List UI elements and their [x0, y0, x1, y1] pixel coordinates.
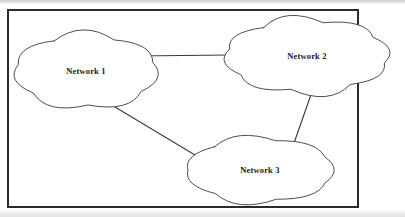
cloud-shapes-layer [14, 15, 390, 205]
cloud-label-network-3: Network 3 [240, 165, 279, 175]
cloud-label-network-1: Network 1 [66, 66, 105, 76]
connection-line-network1-network3 [105, 101, 200, 158]
connection-line-network2-network3 [294, 89, 313, 143]
network-diagram [0, 0, 405, 217]
figure-page: Network 1 Network 2 Network 3 [0, 0, 405, 217]
cloud-label-network-2: Network 2 [287, 51, 326, 61]
